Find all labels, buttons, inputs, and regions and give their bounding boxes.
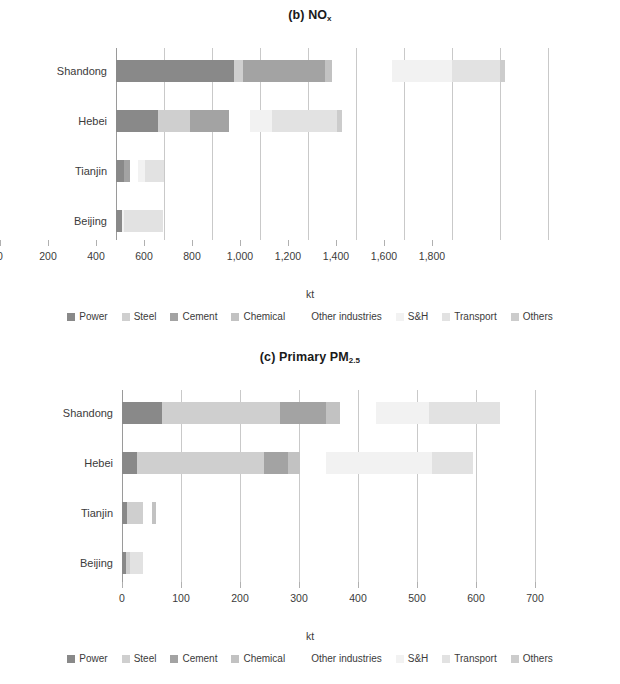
legend-item-chemical[interactable]: Chemical [231, 654, 285, 664]
x-tick-label: 0 [0, 250, 3, 262]
x-tick [48, 240, 49, 246]
legend-item-power[interactable]: Power [67, 654, 107, 664]
bar-segment-power [122, 452, 137, 474]
x-axis-ticks-pm25: 0100200300400500600700 [122, 582, 535, 614]
bar-segment-chemical [152, 502, 156, 524]
x-tick-label: 200 [39, 250, 57, 262]
bar-segment-power [116, 110, 158, 132]
legend-swatch-icon [170, 655, 178, 663]
bar-segment-power [116, 60, 234, 82]
bar-segment-steel [158, 110, 190, 132]
x-tick-label: 1,400 [323, 250, 349, 262]
bar-segment-transport [429, 402, 500, 424]
bar-row-shandong: Shandong [122, 402, 535, 424]
x-tick [96, 240, 97, 246]
x-tick-label: 800 [183, 250, 201, 262]
x-tick [476, 582, 477, 588]
legend-item-power[interactable]: Power [67, 312, 107, 322]
plot-area-pm25: ShandongHebeiTianjinBeijing [122, 390, 535, 582]
x-tick [0, 240, 1, 246]
legend-swatch-icon [396, 313, 404, 321]
x-tick-label: 1,800 [419, 250, 445, 262]
bar-segment-sh [376, 402, 429, 424]
panel-pm25-title-subscript: 2.5 [349, 356, 360, 365]
legend-label: Others [523, 654, 553, 664]
legend-label: Chemical [243, 654, 285, 664]
legend-item-others[interactable]: Others [511, 312, 553, 322]
legend-swatch-icon [511, 313, 519, 321]
bar-segment-steel [162, 402, 280, 424]
x-tick-label: 400 [87, 250, 105, 262]
panel-pm25: (c) Primary PM2.5 ShandongHebeiTianjinBe… [0, 342, 620, 684]
legend-label: Power [79, 312, 107, 322]
legend-swatch-icon [67, 313, 75, 321]
x-tick [535, 582, 536, 588]
bar-row-label: Shandong [63, 407, 113, 419]
bar-segment-steel [234, 60, 244, 82]
legend-swatch-icon [231, 313, 239, 321]
x-tick-label: 600 [467, 592, 485, 604]
legend-label: S&H [408, 312, 429, 322]
legend-item-other_industries[interactable]: Other industries [299, 312, 382, 322]
bar-segment-sh [138, 160, 145, 182]
bar-segment-others [500, 60, 505, 82]
bar-segment-chemical [288, 452, 300, 474]
bar-segment-transport [272, 110, 337, 132]
legend-item-chemical[interactable]: Chemical [231, 312, 285, 322]
x-tick [181, 582, 182, 588]
x-tick [336, 240, 337, 246]
gridline [535, 390, 536, 582]
plot-area-nox: ShandongHebeiTianjinBeijing [116, 48, 548, 240]
legend-item-other_industries[interactable]: Other industries [299, 654, 382, 664]
legend-item-cement[interactable]: Cement [170, 312, 217, 322]
x-tick-label: 400 [349, 592, 367, 604]
x-tick-label: 300 [290, 592, 308, 604]
legend-label: Power [79, 654, 107, 664]
bar-row-tianjin: Tianjin [116, 160, 548, 182]
bar-row-label: Beijing [80, 557, 113, 569]
bar-segment-transport [452, 60, 500, 82]
legend-swatch-icon [67, 655, 75, 663]
legend-item-transport[interactable]: Transport [442, 312, 496, 322]
bar-segment-transport [130, 552, 143, 574]
legend-item-transport[interactable]: Transport [442, 654, 496, 664]
bar-row-tianjin: Tianjin [122, 502, 535, 524]
bar-segment-chemical [326, 402, 341, 424]
legend-item-sh[interactable]: S&H [396, 312, 429, 322]
legend-item-others[interactable]: Others [511, 654, 553, 664]
emissions-figure: (b) NOx ShandongHebeiTianjinBeijing 0200… [0, 0, 620, 684]
x-tick-label: 0 [119, 592, 125, 604]
bar-row-label: Tianjin [75, 165, 107, 177]
legend-swatch-icon [231, 655, 239, 663]
legend-pm25: PowerSteelCementChemicalOther industries… [0, 654, 620, 664]
x-tick [432, 240, 433, 246]
panel-pm25-title: (c) Primary PM2.5 [0, 350, 620, 364]
bar-segment-power [122, 402, 162, 424]
x-tick-label: 1,000 [227, 250, 253, 262]
bar-row-label: Hebei [84, 457, 113, 469]
x-tick-label: 1,200 [275, 250, 301, 262]
bar-segment-sh [326, 452, 432, 474]
legend-swatch-icon [442, 655, 450, 663]
legend-swatch-icon [299, 655, 307, 663]
x-tick-label: 1,600 [371, 250, 397, 262]
legend-item-cement[interactable]: Cement [170, 654, 217, 664]
x-tick [384, 240, 385, 246]
bar-row-hebei: Hebei [116, 110, 548, 132]
legend-label: Other industries [311, 654, 382, 664]
x-tick-label: 600 [135, 250, 153, 262]
bar-segment-cement [190, 110, 228, 132]
bar-segment-steel [127, 502, 144, 524]
x-tick [240, 240, 241, 246]
legend-label: Others [523, 312, 553, 322]
legend-swatch-icon [442, 313, 450, 321]
legend-item-steel[interactable]: Steel [122, 654, 157, 664]
legend-swatch-icon [511, 655, 519, 663]
legend-nox: PowerSteelCementChemicalOther industries… [0, 312, 620, 322]
x-tick [417, 582, 418, 588]
legend-item-steel[interactable]: Steel [122, 312, 157, 322]
bar-segment-chemical [325, 60, 332, 82]
bar-row-hebei: Hebei [122, 452, 535, 474]
legend-item-sh[interactable]: S&H [396, 654, 429, 664]
bar-row-beijing: Beijing [116, 210, 548, 232]
